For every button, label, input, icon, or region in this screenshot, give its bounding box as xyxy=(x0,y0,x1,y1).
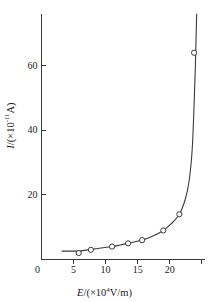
y-axis-times: × xyxy=(5,133,16,139)
y-axis-slash: /( xyxy=(5,139,16,145)
data-point-marker xyxy=(161,228,166,233)
data-point-marker xyxy=(125,241,130,246)
x-tick-label: 15 xyxy=(133,265,143,275)
y-axis-unit: A) xyxy=(5,102,16,113)
chart-plot-area xyxy=(0,0,209,302)
y-tick-label: 20 xyxy=(0,190,38,200)
chart-figure: 05101520204060 I/(×10-11A) E/(×104V/m) xyxy=(0,0,209,302)
data-point-marker xyxy=(177,212,182,217)
x-tick-label: 10 xyxy=(101,265,111,275)
data-point-marker xyxy=(140,238,145,243)
data-point-marker xyxy=(88,247,93,252)
x-tick-label: 0 xyxy=(35,265,40,275)
x-tick-label: 20 xyxy=(165,265,175,275)
curve-path xyxy=(62,14,197,251)
x-axis-base: 10 xyxy=(96,287,107,298)
y-axis-title: I/(×10-11A) xyxy=(5,86,16,166)
y-axis-base: 10 xyxy=(5,122,16,133)
x-tick-label: 5 xyxy=(71,265,76,275)
data-point-markers xyxy=(76,50,197,255)
y-tick-label: 60 xyxy=(0,61,38,71)
axis-ticks xyxy=(42,66,202,264)
data-curve xyxy=(62,14,197,251)
x-axis-unit: V/m) xyxy=(110,287,132,298)
data-point-marker xyxy=(192,50,197,55)
data-point-marker xyxy=(76,250,81,255)
axes xyxy=(42,14,206,260)
y-axis-exponent: -11 xyxy=(3,113,10,122)
x-axis-title: E/(×104V/m) xyxy=(0,287,209,298)
data-point-marker xyxy=(109,244,114,249)
y-axis-variable: I xyxy=(5,145,16,149)
